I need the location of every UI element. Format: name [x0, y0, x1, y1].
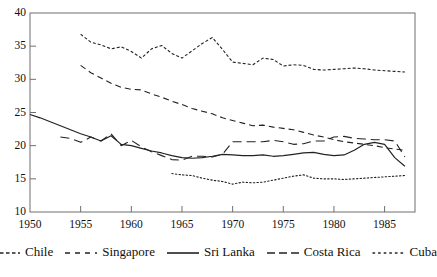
legend-item-sri-lanka[interactable]: Sri Lanka: [166, 244, 255, 260]
x-tick-label: 1985: [365, 218, 405, 230]
legend-label: Sri Lanka: [204, 244, 255, 260]
y-tick-label: 40: [2, 6, 26, 18]
legend-item-cuba[interactable]: Cuba: [372, 244, 437, 260]
y-tick-label: 20: [2, 139, 26, 151]
legend-label: Chile: [25, 244, 53, 260]
x-tick-label: 1975: [263, 218, 303, 230]
x-tick-label: 1960: [111, 218, 151, 230]
y-tick-label: 10: [2, 205, 26, 217]
plot-frame: [30, 13, 415, 212]
legend-label: Singapore: [102, 244, 155, 260]
caption-partial: [6, 266, 186, 274]
x-tick-label: 1970: [213, 218, 253, 230]
x-tick-label: 1950: [10, 218, 50, 230]
legend-swatch-long-dash-icon: [266, 248, 300, 257]
legend-item-costa-rica[interactable]: Costa Rica: [266, 244, 361, 260]
legend-item-chile[interactable]: Chile: [0, 244, 53, 260]
y-tick-label: 15: [2, 172, 26, 184]
legend-swatch-medium-dash-icon: [64, 248, 98, 257]
x-tick-label: 1965: [162, 218, 202, 230]
legend-label: Cuba: [410, 244, 437, 260]
legend-swatch-solid-icon: [166, 248, 200, 257]
legend-item-singapore[interactable]: Singapore: [64, 244, 155, 260]
legend-swatch-fine-dash-icon: [0, 248, 21, 257]
y-tick-label: 25: [2, 106, 26, 118]
x-tick-label: 1980: [314, 218, 354, 230]
legend-swatch-dotted-icon: [372, 248, 406, 257]
x-tick-label: 1955: [61, 218, 101, 230]
y-tick-label: 35: [2, 39, 26, 51]
legend-label: Costa Rica: [304, 244, 361, 260]
y-tick-label: 30: [2, 72, 26, 84]
chart-legend: ChileSingaporeSri LankaCosta RicaCuba: [0, 243, 424, 261]
